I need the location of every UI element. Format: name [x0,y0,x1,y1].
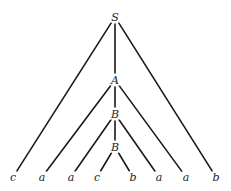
leaf-node-L4: c [93,172,101,183]
leaf-node-L5: b [128,172,137,183]
tree-edge-B2-L5 [119,153,130,171]
tree-edge-B2-L4 [101,153,112,171]
parse-tree-edges [0,0,231,191]
leaf-node-L7: a [182,172,191,183]
leaf-node-L2: a [38,172,47,183]
tree-node-B2: B [110,142,120,153]
leaf-node-L1: c [9,172,17,183]
tree-node-S: S [110,12,120,23]
tree-edge-A-L2 [46,86,111,172]
tree-node-A: A [110,75,120,86]
tree-edge-A-L7 [119,86,182,172]
tree-node-B1: B [110,109,120,120]
leaf-node-L8: b [211,172,220,183]
leaf-node-L3: a [67,172,76,183]
leaf-node-L6: a [155,172,164,183]
